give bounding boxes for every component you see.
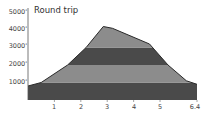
y-tick-label: 1000' [9, 78, 27, 86]
chart-title: Round trip [34, 5, 78, 15]
y-tick-label: 2000' [9, 60, 27, 68]
x-tick-label: 2 [79, 103, 83, 111]
elevation-band [28, 13, 197, 48]
elevation-band [28, 83, 197, 101]
elevation-bands [28, 13, 197, 101]
chart-plot [0, 0, 205, 118]
elevation-band [28, 48, 197, 66]
x-tick-label: 6.4 [190, 103, 200, 111]
y-tick-label: 3000' [9, 42, 27, 50]
elevation-profile-chart: Round trip 5000' 4000' 3000' 2000' 1000'… [0, 0, 205, 118]
x-tick-label: 5 [158, 103, 162, 111]
x-tick-label: 3 [105, 103, 109, 111]
x-tick-label: 4 [132, 103, 136, 111]
x-ticks [54, 100, 197, 102]
y-tick-label: 5000' [9, 8, 27, 16]
x-tick-label: 1 [52, 103, 56, 111]
y-tick-label: 4000' [9, 25, 27, 33]
